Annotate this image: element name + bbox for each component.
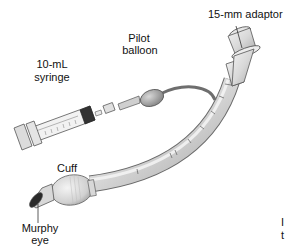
pilot-line	[160, 87, 215, 100]
murphy-eye-label-line1: Murphy	[18, 222, 62, 234]
pilot-balloon-label-line2: balloon	[120, 44, 160, 56]
adaptor	[226, 24, 261, 86]
pilot-balloon-label-line1: Pilot	[124, 32, 154, 44]
cropped-text-line2: t	[281, 229, 284, 241]
syringe-label-line2: syringe	[32, 71, 72, 83]
bevel-tip	[27, 184, 54, 223]
diagram-canvas: 15-mm adaptor Pilot balloon 10-mL syring…	[0, 0, 286, 246]
cuff-label: Cuff	[52, 162, 82, 174]
murphy-eye-label-line2: eye	[26, 234, 54, 246]
syringe-label-line1: 10-mL	[32, 58, 72, 70]
pilot-balloon	[103, 86, 166, 113]
adaptor-label: 15-mm adaptor	[208, 8, 283, 20]
syringe	[14, 106, 102, 150]
cropped-text-line1: I	[281, 216, 284, 228]
